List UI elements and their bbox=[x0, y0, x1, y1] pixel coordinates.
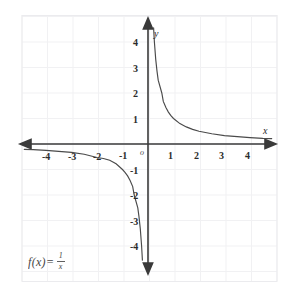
x-tick-label-2: 2 bbox=[194, 151, 199, 161]
caption-denominator: x bbox=[57, 262, 65, 271]
y-axis-name: y bbox=[154, 29, 158, 39]
graph-figure: -4 -3 -2 -1 1 2 3 4 4 3 2 1 -1 -2 -3 -4 … bbox=[0, 0, 296, 293]
caption-numerator: 1 bbox=[57, 252, 65, 261]
fraction-bar bbox=[57, 261, 65, 262]
y-tick-label--3: -3 bbox=[130, 217, 138, 227]
x-tick-label--3: -3 bbox=[68, 152, 76, 162]
x-tick-label--2: -2 bbox=[93, 152, 101, 162]
x-tick-label--4: -4 bbox=[42, 152, 50, 162]
y-axis bbox=[143, 18, 152, 274]
y-tick-label-3: 3 bbox=[133, 64, 138, 74]
plot-layer bbox=[0, 0, 296, 293]
caption-equals: = bbox=[47, 256, 54, 268]
y-tick-label-2: 2 bbox=[133, 89, 138, 99]
caption-function-name: f(x) bbox=[28, 256, 46, 268]
y-tick-label--2: -2 bbox=[130, 191, 138, 201]
curve-branch-positive bbox=[154, 28, 272, 139]
x-tick-label-4: 4 bbox=[245, 151, 250, 161]
y-tick-label-4: 4 bbox=[133, 38, 138, 48]
y-tick-label--4: -4 bbox=[130, 242, 138, 252]
x-tick-label-1: 1 bbox=[168, 151, 173, 161]
origin-label: o bbox=[140, 149, 144, 157]
caption-fraction: 1 x bbox=[57, 252, 65, 271]
x-tick-label--1: -1 bbox=[119, 151, 127, 161]
x-tick-label-3: 3 bbox=[219, 151, 224, 161]
function-caption: f(x) = 1 x bbox=[28, 252, 65, 271]
y-tick-label-1: 1 bbox=[133, 115, 138, 125]
y-tick-label--1: -1 bbox=[130, 166, 138, 176]
curve-branch-negative bbox=[24, 149, 142, 260]
x-axis-name: x bbox=[263, 126, 267, 136]
